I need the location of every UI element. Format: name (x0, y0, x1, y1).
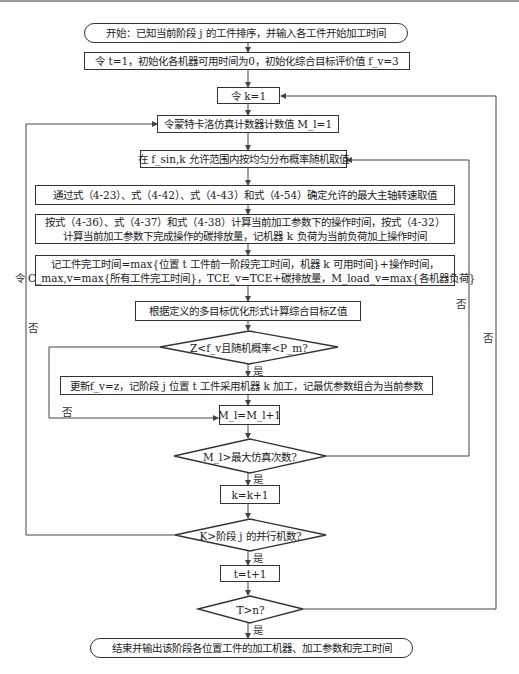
calc-z-box: 根据定义的多目标优化形式计算综合目标Z值 (135, 301, 361, 321)
yes-label-t: 是 (253, 622, 263, 637)
decision-k: K>阶段 j 的并行机数? (175, 519, 326, 551)
calc-ops-line-2: 计算当前加工参数下完成操作的碳排放量，记机器 k 负荷为当前负荷加上操作时间 (63, 229, 426, 243)
decision-mc: M_l>最大仿真次数? (174, 439, 326, 473)
inc-t-box: t=t+1 (220, 565, 280, 582)
end-text: 结束并输出该阶段各位置工件的加工机器、加工参数和完工时间 (112, 641, 392, 655)
calc-z-text: 根据定义的多目标优化形式计算综合目标Z值 (149, 304, 346, 318)
inc-t-text: t=t+1 (234, 567, 267, 581)
inc-mc-box: M_l=M_l+1 (219, 405, 280, 425)
init-text: 令 t=1，初始化各机器可用时间为0，初始化综合目标评价值 f_v=3 (95, 54, 399, 68)
record-finish-line-1: 记工件完工时间=max{位置 t 工件前一阶段完工时间，机器 k 可用时间}+操… (51, 257, 438, 271)
set-mc-text: 令蒙特卡洛仿真计数器计数值 M_l=1 (164, 117, 332, 131)
random-pick-box: 在 f_sin,k 允许范围内按均匀分布概率随机取值 (140, 150, 347, 168)
inc-mc-text: M_l=M_l+1 (218, 408, 281, 422)
decision-t: T>n? (198, 596, 303, 623)
update-box: 更新f_v=z，记阶段 j 位置 t 工件采用机器 k 加工，记最优参数组合为当… (60, 376, 433, 395)
set-k-text: 令 k=1 (231, 89, 266, 103)
start-text: 开始：已知当前阶段 j 的工件排序，并输入各工件开始加工时间 (106, 26, 386, 40)
no-label-mc: 否 (456, 296, 466, 311)
end-terminal: 结束并输出该阶段各位置工件的加工机器、加工参数和完工时间 (90, 638, 413, 658)
init-box: 令 t=1，初始化各机器可用时间为0，初始化综合目标评价值 f_v=3 (84, 52, 410, 70)
inc-k-text: k=k+1 (231, 488, 268, 502)
no-label-k: 否 (28, 320, 38, 335)
random-pick-text: 在 f_sin,k 允许范围内按均匀分布概率随机取值 (138, 152, 349, 166)
no-label-z: 否 (62, 404, 72, 419)
calc-ops-box: 按式（4-36）、式（4-37）和式（4-38）计算当前加工参数下的操作时间，按… (35, 214, 455, 244)
decision-t-text: T>n? (236, 604, 264, 616)
calc-ops-line-1: 按式（4-36）、式（4-37）和式（4-38）计算当前加工参数下的操作时间，按… (45, 215, 444, 229)
decision-z-text: Z<f_v且随机概率<P_m? (190, 340, 308, 355)
max-spindle-box: 通过式（4-23）、式（4-42）、式（4-43）和式（4-54）确定允许的最大… (35, 185, 455, 205)
yes-label-k: 是 (253, 550, 263, 565)
decision-mc-text: M_l>最大仿真次数? (203, 449, 297, 464)
record-finish-line-2: 令 C_max,v=max{所有工件完工时间}，TCE_v=TCE+碳排放量，M… (15, 271, 476, 285)
set-mc-counter-box: 令蒙特卡洛仿真计数器计数值 M_l=1 (157, 115, 339, 133)
start-terminal: 开始：已知当前阶段 j 的工件排序，并输入各工件开始加工时间 (84, 23, 408, 43)
decision-k-text: K>阶段 j 的并行机数? (199, 528, 301, 543)
record-finish-box: 记工件完工时间=max{位置 t 工件前一阶段完工时间，机器 k 可用时间}+操… (35, 255, 455, 286)
inc-k-box: k=k+1 (220, 485, 280, 504)
set-k-box: 令 k=1 (217, 87, 280, 104)
max-spindle-text: 通过式（4-23）、式（4-42）、式（4-43）和式（4-54）确定允许的最大… (53, 188, 437, 202)
no-label-t: 否 (483, 330, 493, 345)
yes-label-mc: 是 (253, 471, 263, 486)
decision-z: Z<f_v且随机概率<P_m? (160, 331, 338, 364)
yes-label-z: 是 (253, 363, 263, 378)
update-text: 更新f_v=z，记阶段 j 位置 t 工件采用机器 k 加工，记最优参数组合为当… (70, 379, 423, 393)
